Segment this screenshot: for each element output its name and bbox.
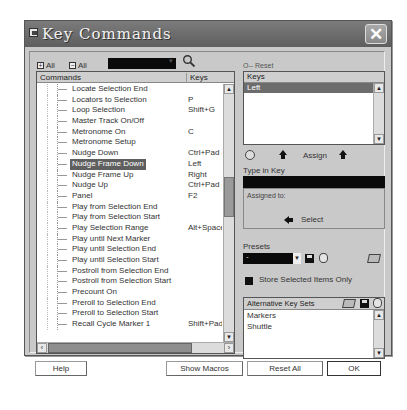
tree-line bbox=[47, 255, 48, 266]
command-row[interactable]: Play Selection RangeAlt+Space bbox=[37, 223, 222, 234]
tree-connector bbox=[57, 212, 67, 223]
delete-icon[interactable] bbox=[373, 298, 382, 308]
scroll-down-icon[interactable]: ▼ bbox=[374, 134, 384, 144]
tree-line bbox=[47, 127, 48, 138]
close-icon: ✕ bbox=[369, 25, 383, 44]
tree-line bbox=[47, 105, 48, 116]
ok-button[interactable]: OK bbox=[327, 361, 381, 376]
command-row[interactable]: Precount On bbox=[37, 287, 222, 298]
delete-key-icon[interactable] bbox=[245, 150, 255, 160]
keys-vertical-scrollbar[interactable]: ▲ ▼ bbox=[373, 83, 384, 144]
tree-connector bbox=[57, 84, 67, 95]
command-row[interactable]: Nudge UpCtrl+Pad + bbox=[37, 180, 222, 191]
tree-connector bbox=[57, 255, 67, 266]
command-row[interactable]: Master Track On/Off bbox=[37, 116, 222, 127]
key-item[interactable]: Left bbox=[244, 83, 373, 93]
delete-preset-icon[interactable] bbox=[319, 253, 328, 263]
tree-connector bbox=[57, 266, 67, 277]
scroll-thumb[interactable] bbox=[48, 343, 192, 353]
scroll-up-icon[interactable]: ▲ bbox=[374, 310, 384, 320]
collapse-all-button[interactable]: − All bbox=[69, 61, 87, 70]
command-row[interactable]: Nudge DownCtrl+Pad - bbox=[37, 148, 222, 159]
save-preset-icon[interactable] bbox=[305, 254, 314, 263]
tree-line bbox=[47, 116, 48, 127]
tree-line bbox=[47, 180, 48, 191]
alternative-key-sets-list: Alternative Key Sets Markers Shuttle ▲ ▼ bbox=[243, 297, 385, 359]
command-row[interactable]: Locate Selection End bbox=[37, 84, 222, 95]
presets-label: Presets bbox=[243, 242, 270, 251]
commands-header: Commands Keys bbox=[37, 72, 234, 83]
expand-all-button[interactable]: + All bbox=[37, 61, 55, 70]
command-row[interactable]: Play until Selection End bbox=[37, 244, 222, 255]
scroll-up-icon[interactable]: ▲ bbox=[374, 83, 384, 93]
command-row[interactable]: Locators to SelectionP bbox=[37, 95, 222, 106]
scroll-thumb[interactable] bbox=[224, 177, 234, 217]
commands-vertical-scrollbar[interactable]: ▲ ▼ bbox=[223, 84, 234, 342]
command-row[interactable]: Postroll from Selection End bbox=[37, 266, 222, 277]
open-folder-icon[interactable] bbox=[367, 254, 381, 263]
commands-horizontal-scrollbar[interactable]: ‹ › bbox=[37, 342, 234, 353]
scroll-up-icon[interactable]: ▲ bbox=[224, 84, 234, 94]
scroll-down-icon[interactable]: ▼ bbox=[374, 348, 384, 358]
command-row[interactable]: Loop SelectionShift+G bbox=[37, 105, 222, 116]
command-name: Precount On bbox=[70, 287, 119, 298]
scroll-right-icon[interactable]: › bbox=[224, 343, 234, 353]
tree-connector bbox=[57, 298, 67, 309]
command-row[interactable]: Postroll from Selection Start bbox=[37, 276, 222, 287]
close-button[interactable]: ✕ bbox=[365, 24, 387, 44]
search-input[interactable] bbox=[108, 58, 176, 69]
command-keys: Shift+G bbox=[188, 105, 215, 116]
search-icon[interactable] bbox=[182, 54, 196, 68]
plus-box-icon: + bbox=[37, 62, 44, 69]
command-row[interactable]: Metronome OnC bbox=[37, 127, 222, 138]
command-name: Preroll to Selection End bbox=[70, 298, 158, 309]
command-name: Recall Cycle Marker 1 bbox=[70, 319, 152, 330]
alt-key-set-item[interactable]: Shuttle bbox=[244, 321, 384, 332]
type-in-key-input[interactable] bbox=[243, 176, 385, 188]
chevron-down-icon[interactable]: ▼ bbox=[293, 253, 301, 264]
command-row[interactable]: Recall Cycle Marker 1Shift+Pad1 bbox=[37, 319, 222, 330]
app-icon bbox=[29, 28, 38, 37]
type-in-key-label: Type in Key bbox=[243, 166, 285, 175]
title-bar[interactable]: Key Commands ✕ bbox=[25, 21, 391, 47]
command-keys: Left bbox=[188, 159, 201, 170]
presets-dropdown[interactable]: - ▼ bbox=[243, 253, 301, 264]
show-macros-button[interactable]: Show Macros bbox=[166, 361, 243, 376]
command-row[interactable]: PanelF2 bbox=[37, 191, 222, 202]
tree-line bbox=[47, 159, 48, 170]
command-row[interactable]: Nudge Frame UpRight bbox=[37, 170, 222, 181]
command-row[interactable]: Preroll to Selection Start bbox=[37, 308, 222, 319]
command-row[interactable]: Play from Selection End bbox=[37, 202, 222, 213]
tree-line bbox=[47, 84, 48, 95]
arrow-up-icon[interactable] bbox=[339, 150, 347, 155]
scroll-down-icon[interactable]: ▼ bbox=[224, 332, 234, 342]
open-folder-icon[interactable] bbox=[342, 299, 356, 308]
column-header-keys[interactable]: Keys bbox=[186, 73, 234, 83]
command-name: Play Selection Range bbox=[70, 223, 151, 234]
tree-connector bbox=[57, 234, 67, 245]
tree-line bbox=[47, 298, 48, 309]
reset-all-button[interactable]: Reset All bbox=[247, 361, 323, 376]
arrow-left-icon bbox=[284, 216, 293, 224]
tree-connector bbox=[57, 191, 67, 202]
arrow-up-icon[interactable] bbox=[279, 150, 287, 155]
window-title: Key Commands bbox=[42, 25, 172, 43]
alt-key-set-item[interactable]: Markers bbox=[244, 310, 384, 321]
reset-button[interactable]: O-- Reset bbox=[243, 62, 273, 69]
command-row[interactable]: Preroll to Selection End bbox=[37, 298, 222, 309]
assign-button[interactable]: Assign bbox=[303, 151, 327, 160]
command-keys: C bbox=[188, 127, 194, 138]
alt-key-sets-scrollbar[interactable]: ▲ ▼ bbox=[373, 310, 384, 358]
select-button[interactable]: Select bbox=[284, 215, 323, 224]
command-row[interactable]: Play until Selection Start bbox=[37, 255, 222, 266]
help-button[interactable]: Help bbox=[35, 361, 87, 376]
command-row[interactable]: Nudge Frame DownLeft bbox=[37, 159, 222, 170]
scroll-left-icon[interactable]: ‹ bbox=[37, 343, 47, 353]
store-selected-checkbox[interactable] bbox=[245, 277, 253, 285]
column-header-commands[interactable]: Commands bbox=[40, 73, 81, 82]
save-icon[interactable] bbox=[360, 299, 369, 308]
command-keys: Ctrl+Pad - bbox=[188, 148, 222, 159]
command-row[interactable]: Metronome Setup bbox=[37, 137, 222, 148]
command-row[interactable]: Play until Next Marker bbox=[37, 234, 222, 245]
command-row[interactable]: Play from Selection Start bbox=[37, 212, 222, 223]
